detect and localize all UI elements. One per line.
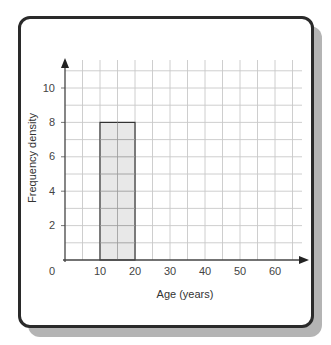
x-axis-arrow-icon: [299, 256, 309, 264]
histogram-bars: [100, 122, 135, 260]
x-tick-30: 30: [164, 265, 176, 277]
axes: [61, 58, 309, 264]
histogram-chart: 0 10 20 30 40 50 60 2 4 6 8 10 Age (year…: [0, 0, 331, 345]
x-tick-10: 10: [94, 265, 106, 277]
y-tick-4: 4: [49, 185, 55, 197]
x-tick-60: 60: [269, 265, 281, 277]
y-tick-2: 2: [49, 219, 55, 231]
y-tick-8: 8: [49, 116, 55, 128]
tick-labels: 0 10 20 30 40 50 60 2 4 6 8 10: [43, 82, 281, 277]
y-tick-6: 6: [49, 150, 55, 162]
y-tick-10: 10: [43, 82, 55, 94]
y-axis-arrow-icon: [61, 58, 69, 68]
origin-label: 0: [49, 265, 55, 277]
x-tick-20: 20: [129, 265, 141, 277]
x-axis-label: Age (years): [157, 288, 214, 300]
y-axis-label: Frequency density: [26, 113, 38, 203]
x-tick-40: 40: [199, 265, 211, 277]
grid-lines: [61, 60, 302, 260]
x-tick-50: 50: [234, 265, 246, 277]
